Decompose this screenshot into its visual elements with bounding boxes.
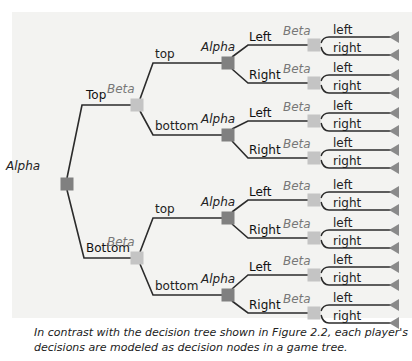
- edge-l3-6: [232, 275, 308, 289]
- leaf-triangle-icon: [389, 69, 399, 81]
- player-label-alpha-l2-2: Alpha: [200, 195, 235, 209]
- leaf-label-1: right: [333, 41, 361, 55]
- leaf-triangle-icon: [389, 204, 399, 216]
- player-label-root: Alpha: [5, 159, 40, 173]
- caption-line-1: In contrast with the decision tree shown…: [34, 325, 412, 340]
- edge-l3-0: [232, 45, 308, 57]
- player-label-beta-l3-1: Beta: [283, 62, 311, 76]
- player-label-beta-l1-1: Beta: [107, 235, 135, 249]
- player-label-beta-l3-2: Beta: [283, 100, 311, 114]
- alpha-node-l2-0: [222, 57, 235, 70]
- beta-node-l3-6: [308, 269, 321, 282]
- player-label-beta-l3-4: Beta: [283, 179, 311, 193]
- branch-label-l3-3: Right: [249, 143, 281, 157]
- leaf-label-5: right: [333, 117, 361, 131]
- branch-label-l3-6: Left: [249, 260, 272, 274]
- leaf-label-0: left: [333, 23, 353, 37]
- leaf-triangle-icon: [389, 49, 399, 61]
- player-label-beta-l3-6: Beta: [283, 254, 311, 268]
- leaf-triangle-icon: [389, 87, 399, 99]
- edge-top: [67, 105, 131, 178]
- player-label-alpha-l2-0: Alpha: [200, 40, 235, 54]
- beta-node-l3-1: [308, 77, 321, 90]
- edge-l3-2: [232, 121, 308, 129]
- branch-label-l3-4: Left: [249, 185, 272, 199]
- beta-node-l3-7: [308, 307, 321, 320]
- player-label-beta-l3-3: Beta: [283, 137, 311, 151]
- alpha-node-l2-3: [222, 289, 235, 302]
- beta-node-l3-2: [308, 115, 321, 128]
- branch-label-top: Top: [85, 88, 106, 102]
- leaf-label-2: left: [333, 61, 353, 75]
- player-label-beta-l1-0: Beta: [107, 82, 135, 96]
- branch-label-l3-0: Left: [249, 30, 272, 44]
- alpha-root-node: [61, 178, 74, 191]
- leaf-triangle-icon: [389, 144, 399, 156]
- edge-l2-2: [140, 218, 222, 252]
- leaf-label-15: right: [333, 309, 361, 323]
- branch-label-l3-5: Right: [249, 223, 281, 237]
- beta-node-l1-1: [131, 252, 144, 265]
- leaf-label-13: right: [333, 271, 361, 285]
- branch-label-l3-2: Left: [249, 106, 272, 120]
- branch-label-l2-0: top: [155, 47, 175, 61]
- branch-label-l2-3: bottom: [155, 279, 198, 293]
- leaf-triangle-icon: [389, 31, 399, 43]
- branch-label-l2-2: top: [155, 202, 175, 216]
- figure-caption: In contrast with the decision tree shown…: [34, 325, 412, 355]
- leaf-triangle-icon: [389, 279, 399, 291]
- edge-l3-4: [232, 200, 308, 212]
- player-label-beta-l3-0: Beta: [283, 24, 311, 38]
- caption-line-2: decisions are modeled as decision nodes …: [34, 340, 412, 355]
- leaf-label-14: left: [333, 291, 353, 305]
- beta-node-l3-3: [308, 152, 321, 165]
- leaf-triangle-icon: [389, 107, 399, 119]
- beta-node-l1-0: [131, 99, 144, 112]
- branch-label-l3-7: Right: [249, 298, 281, 312]
- leaf-label-12: left: [333, 253, 353, 267]
- leaf-triangle-icon: [389, 186, 399, 198]
- leaf-label-11: right: [333, 234, 361, 248]
- leaf-triangle-icon: [389, 261, 399, 273]
- leaf-triangle-icon: [389, 125, 399, 137]
- leaf-label-3: right: [333, 79, 361, 93]
- branch-label-l2-1: bottom: [155, 119, 198, 133]
- beta-node-l3-0: [308, 39, 321, 52]
- player-label-alpha-l2-3: Alpha: [200, 272, 235, 286]
- beta-node-l3-4: [308, 194, 321, 207]
- leaf-triangle-icon: [389, 162, 399, 174]
- player-label-beta-l3-7: Beta: [283, 292, 311, 306]
- leaf-triangle-icon: [389, 242, 399, 254]
- edge-l2-0: [140, 63, 222, 99]
- game-tree-diagram: TopBottomAlphaBetaBetatopbottomtopbottom…: [0, 0, 412, 361]
- leaf-label-6: left: [333, 136, 353, 150]
- beta-node-l3-5: [308, 232, 321, 245]
- alpha-node-l2-1: [222, 129, 235, 142]
- leaf-label-10: left: [333, 216, 353, 230]
- leaf-label-7: right: [333, 154, 361, 168]
- leaf-label-9: right: [333, 196, 361, 210]
- alpha-node-l2-2: [222, 212, 235, 225]
- player-label-alpha-l2-1: Alpha: [200, 112, 235, 126]
- player-label-beta-l3-5: Beta: [283, 217, 311, 231]
- leaf-label-8: left: [333, 178, 353, 192]
- leaf-triangle-icon: [389, 299, 399, 311]
- leaf-label-4: left: [333, 99, 353, 113]
- branch-label-l3-1: Right: [249, 68, 281, 82]
- leaf-triangle-icon: [389, 224, 399, 236]
